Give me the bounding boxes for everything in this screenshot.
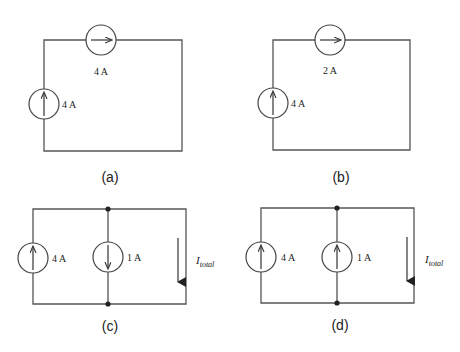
source-top-label: 4 A — [94, 66, 109, 77]
current-source-left — [246, 242, 276, 272]
wire-loop — [273, 40, 410, 150]
circuit-a: 4 A 4 A (a) — [29, 25, 182, 185]
source-middle-label: 1 A — [357, 252, 372, 263]
node-dot-top — [105, 206, 110, 211]
caption: (b) — [332, 169, 349, 185]
current-source-left — [258, 88, 288, 118]
circuit-d: 4 A 1 A Itotal (d) — [246, 205, 444, 333]
source-top-label: 2 A — [323, 65, 338, 76]
current-source-top — [86, 25, 116, 55]
source-middle-label: 1 A — [127, 252, 142, 263]
current-source-left — [29, 89, 59, 119]
node-dot-bottom — [105, 301, 110, 306]
circuit-c: 4 A 1 A Itotal (c) — [18, 206, 215, 334]
itotal-label: Itotal — [424, 253, 444, 268]
source-left-label: 4 A — [62, 99, 77, 110]
current-source-middle — [322, 242, 352, 272]
itotal-label: Itotal — [195, 254, 215, 269]
source-left-label: 4 A — [291, 98, 306, 109]
caption: (a) — [101, 169, 118, 185]
node-dot-top — [334, 205, 339, 210]
node-dot-bottom — [334, 300, 339, 305]
current-source-middle — [93, 242, 123, 272]
caption: (d) — [331, 317, 348, 333]
caption: (c) — [102, 318, 118, 334]
circuits-figure: 4 A 4 A (a) 2 A 4 A (b) 4 A — [0, 0, 460, 352]
source-left-label: 4 A — [52, 253, 67, 264]
source-left-label: 4 A — [281, 252, 296, 263]
circuit-b: 2 A 4 A (b) — [258, 25, 410, 185]
current-source-left — [18, 243, 48, 273]
current-source-top — [315, 25, 345, 55]
wire-loop — [44, 40, 182, 151]
